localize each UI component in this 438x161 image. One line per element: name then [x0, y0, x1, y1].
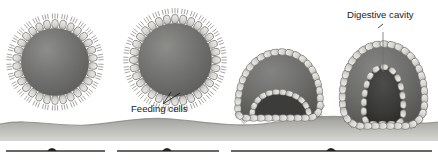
label-feeding-cells: Feeding cells	[131, 103, 188, 114]
gastrulation-figure: Feeding cells Digestive cavity	[0, 0, 438, 161]
label-digestive-cavity: Digestive cavity	[347, 9, 414, 20]
stage-1-blastula	[6, 13, 103, 110]
figure-canvas: Feeding cells Digestive cavity	[0, 0, 438, 161]
